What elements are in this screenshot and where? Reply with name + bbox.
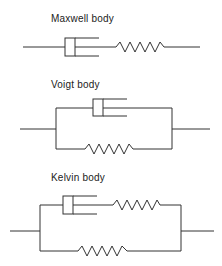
rheology-diagram bbox=[0, 0, 222, 266]
maxwell-model bbox=[23, 38, 200, 56]
dashpot-piston bbox=[63, 196, 73, 214]
spring bbox=[116, 42, 164, 52]
spring bbox=[113, 200, 160, 210]
spring bbox=[85, 144, 133, 154]
dashpot-piston bbox=[65, 38, 75, 56]
voigt-model bbox=[20, 99, 210, 154]
dashpot-piston bbox=[93, 99, 103, 116]
spring bbox=[78, 246, 127, 256]
kelvin-model bbox=[10, 196, 214, 256]
